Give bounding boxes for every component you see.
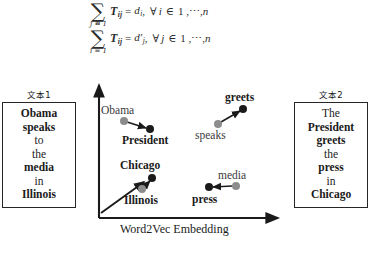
arrow-Illinois-to-Chicago bbox=[144, 181, 150, 187]
equation-row-1: n ∑ j = 1 Tij = di , ∀ i ∈ 1 , ⋯ , n bbox=[90, 2, 208, 20]
point-press bbox=[205, 183, 213, 191]
text-box-2-container: 文本2 ThePresidentgreetsthepressinChicago bbox=[294, 88, 368, 208]
point-label-speaks: speaks bbox=[195, 129, 226, 141]
text-box-word: The bbox=[297, 107, 365, 121]
index-variable-1: i bbox=[159, 5, 162, 17]
range-end-2: n bbox=[205, 32, 211, 44]
summation-symbol-2: n ∑ i = 1 bbox=[90, 29, 106, 47]
ellipsis-2: ⋯ bbox=[191, 32, 202, 45]
rhs-symbol-2: d′j bbox=[134, 31, 145, 45]
text-box-word: President bbox=[297, 121, 365, 135]
point-label-obama: Obama bbox=[101, 104, 134, 116]
text-box-2-caption: 文本2 bbox=[294, 88, 368, 100]
index-variable-2: j bbox=[161, 32, 164, 44]
text-box-word: Obama bbox=[5, 107, 73, 121]
equations-block: n ∑ j = 1 Tij = di , ∀ i ∈ 1 , ⋯ , n n ∑… bbox=[90, 0, 350, 62]
point-media bbox=[232, 182, 240, 190]
text-box-word: Chicago bbox=[297, 188, 365, 202]
element-of-symbol-1: ∈ bbox=[166, 5, 174, 18]
forall-symbol-2: ∀ bbox=[152, 32, 159, 45]
arrow-speaks-to-greets bbox=[221, 111, 240, 122]
point-president bbox=[146, 125, 154, 133]
matrix-subscript: ij bbox=[118, 10, 122, 19]
text-box-1-caption: 文本1 bbox=[2, 88, 76, 100]
range-start-1: 1 , bbox=[178, 5, 189, 17]
text-box-word: in bbox=[297, 175, 365, 189]
text-box-word: press bbox=[297, 161, 365, 175]
point-label-media: media bbox=[218, 169, 246, 181]
element-of-symbol-2: ∈ bbox=[168, 32, 176, 45]
range-start-2: 1 , bbox=[180, 32, 191, 44]
arrow-Obama-to-President bbox=[127, 122, 146, 128]
equals-sign-2: = bbox=[125, 32, 131, 44]
point-obama bbox=[120, 117, 128, 125]
text-box-word: media bbox=[5, 161, 73, 175]
arrow-media-to-press bbox=[213, 186, 232, 187]
point-label-president: President bbox=[122, 134, 168, 146]
text-box-word: greets bbox=[297, 134, 365, 148]
text-box-1: ObamaspeakstothemediainIllinois bbox=[2, 102, 76, 208]
equals-sign-1: = bbox=[125, 5, 131, 17]
matrix-symbol-2: Tij bbox=[110, 31, 122, 46]
point-chicago bbox=[148, 174, 156, 182]
ellipsis-1: ⋯ bbox=[189, 5, 200, 18]
matrix-symbol-1: Tij bbox=[110, 4, 122, 19]
text-box-2: ThePresidentgreetsthepressinChicago bbox=[294, 102, 368, 208]
text-box-word: in bbox=[5, 175, 73, 189]
text-box-word: speaks bbox=[5, 121, 73, 135]
equation-row-2: n ∑ i = 1 Tij = d′j , ∀ j ∈ 1 , ⋯ , n bbox=[90, 29, 211, 47]
point-illinois bbox=[138, 185, 146, 193]
text-box-word: the bbox=[5, 148, 73, 162]
sum-lower-limit: i = 1 bbox=[90, 48, 106, 55]
rhs-symbol-1: di bbox=[134, 4, 142, 18]
text-box-word: to bbox=[5, 134, 73, 148]
text-box-word: the bbox=[297, 148, 365, 162]
point-label-chicago: Chicago bbox=[120, 159, 160, 171]
point-label-illinois: Illinois bbox=[124, 194, 158, 206]
text-box-1-container: 文本1 ObamaspeakstothemediainIllinois bbox=[2, 88, 76, 208]
forall-symbol-1: ∀ bbox=[150, 5, 157, 18]
point-label-press: press bbox=[192, 193, 217, 205]
point-greets bbox=[239, 105, 247, 113]
point-speaks bbox=[214, 120, 222, 128]
summation-symbol-1: n ∑ j = 1 bbox=[90, 2, 106, 20]
word2vec-embedding-figure: n ∑ j = 1 Tij = di , ∀ i ∈ 1 , ⋯ , n n ∑… bbox=[0, 0, 370, 253]
text-box-word: Illinois bbox=[5, 188, 73, 202]
point-label-greets: greets bbox=[225, 91, 254, 103]
sum-upper-limit: n bbox=[90, 20, 106, 27]
range-end-1: n bbox=[203, 5, 209, 17]
matrix-subscript: ij bbox=[118, 37, 122, 46]
x-axis-label: Word2Vec Embedding bbox=[120, 222, 229, 237]
